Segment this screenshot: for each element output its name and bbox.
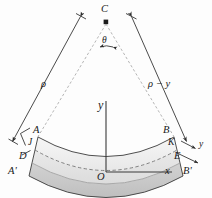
label-radius-rho: ρ <box>41 79 46 90</box>
label-point-k: K <box>168 138 174 148</box>
label-point-d: D <box>19 151 27 162</box>
label-angle-theta: θ <box>102 36 107 46</box>
figure-canvas <box>0 0 212 198</box>
label-point-a-prime: A' <box>8 166 17 177</box>
dimension-line-rho <box>9 14 87 145</box>
angle-theta-indicator <box>100 46 113 47</box>
label-offset-y: y <box>199 140 203 150</box>
label-point-b: B <box>163 125 169 136</box>
label-axis-x: x <box>165 166 170 177</box>
label-point-j: J <box>28 138 32 148</box>
label-radius-rho-minus-y: ρ − y <box>148 79 170 90</box>
label-origin-o: O <box>97 172 105 183</box>
label-axis-y: y <box>98 99 103 111</box>
label-point-b-prime: B' <box>183 166 192 177</box>
curved-beam-figure: C θ ρ ρ − y y x O A J D A' B K E B' y <box>0 0 212 198</box>
center-of-curvature-marker <box>104 20 109 25</box>
label-point-a: A <box>33 125 39 136</box>
label-center-point-c: C <box>101 4 108 15</box>
label-point-e: E <box>174 151 180 162</box>
